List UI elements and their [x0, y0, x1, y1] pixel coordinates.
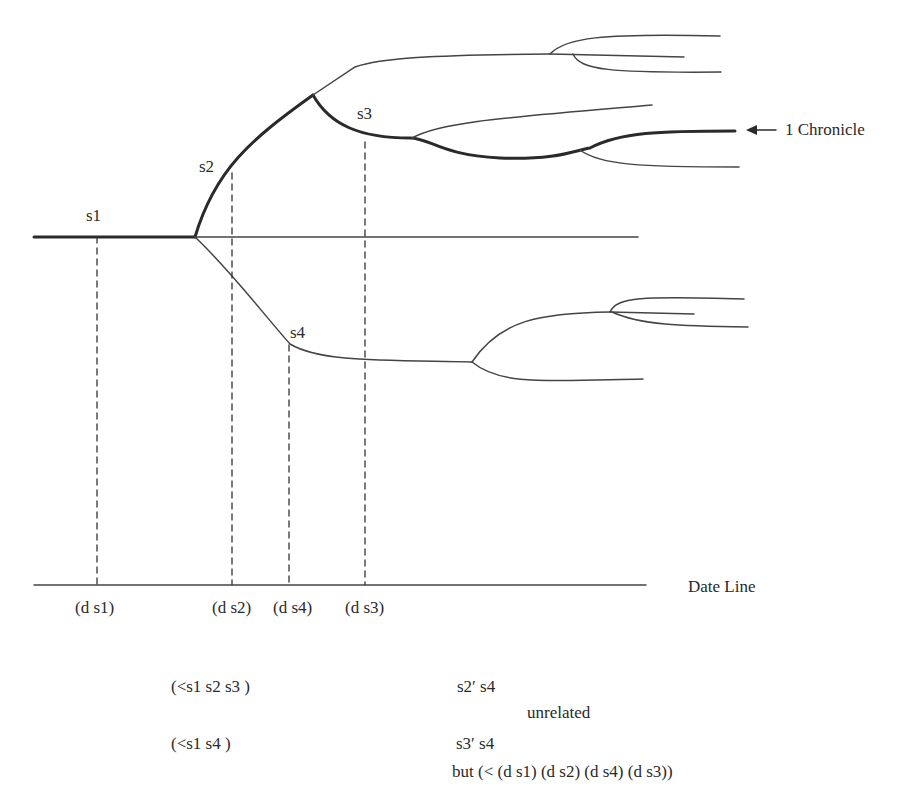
chronicle-arrow-head — [746, 125, 757, 135]
chronicle-s3-branch — [313, 95, 735, 158]
state-label-s1: s1 — [86, 207, 101, 224]
s3-lower-fork — [580, 150, 739, 167]
date-tick-s4: (d s4) — [273, 599, 312, 616]
but-clause: but (< (d s1) (d s2) (d s4) (d s3)) — [452, 763, 673, 780]
upper-branch-fork-b — [550, 54, 684, 57]
s4-branch — [195, 237, 472, 362]
s4-subfork-a — [610, 298, 744, 312]
s4-fork-lower — [472, 362, 643, 381]
order-relation-2: (<s1 s4 ) — [171, 735, 231, 752]
s4-fork-upper — [472, 312, 610, 362]
state-label-s3: s3 — [357, 105, 372, 122]
unrelated-label: unrelated — [527, 704, 590, 721]
order-relation-1: (<s1 s2 s3 ) — [171, 678, 250, 695]
upper-branch-fork-a — [550, 35, 720, 54]
state-label-s4: s4 — [290, 324, 305, 341]
unrelated-pair-1: s2′ s4 — [457, 678, 495, 695]
upper-branch — [313, 54, 550, 95]
state-label-s2: s2 — [199, 158, 214, 175]
date-tick-s1: (d s1) — [75, 599, 114, 616]
chronicle-label: 1 Chronicle — [785, 121, 865, 138]
date-line-label: Date Line — [688, 578, 756, 595]
date-tick-s2: (d s2) — [212, 599, 251, 616]
unrelated-pair-2: s3′ s4 — [456, 735, 494, 752]
date-tick-s3: (d s3) — [345, 599, 384, 616]
s4-subfork-b — [610, 312, 694, 314]
s3-upper-fork — [412, 105, 652, 138]
